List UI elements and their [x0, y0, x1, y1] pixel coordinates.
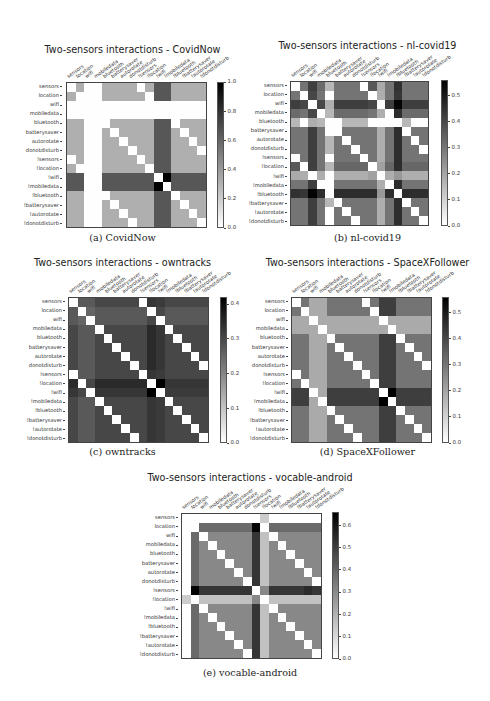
colorbar — [441, 80, 448, 226]
heatmap-cell — [199, 370, 208, 379]
heatmap-cell — [342, 198, 351, 207]
y-tick-label: !wifi — [164, 606, 178, 611]
heatmap-cell — [351, 216, 360, 225]
heatmap-cell — [121, 370, 130, 379]
y-tick-label: !wifi — [273, 174, 287, 179]
heatmap-cell — [309, 343, 318, 352]
heatmap-cell — [119, 92, 128, 101]
heatmap-cell — [128, 83, 137, 92]
heatmap-cell — [86, 379, 95, 388]
heatmap-cell — [197, 128, 206, 137]
heatmap-cell — [402, 198, 411, 207]
y-tick-label: !wifi — [48, 175, 62, 180]
heatmap-cell — [252, 550, 261, 559]
heatmap-cell — [308, 82, 317, 91]
heatmap-cell — [318, 388, 327, 397]
heatmap-cell — [402, 109, 411, 118]
heatmap-cell — [334, 136, 343, 145]
heatmap-cell — [334, 216, 343, 225]
heatmap-cell — [327, 307, 336, 316]
heatmap-cell — [368, 118, 377, 127]
heatmap-cell — [360, 127, 369, 136]
heatmap-cell — [147, 406, 156, 415]
colorbar-tick-label: 0.6 — [224, 138, 236, 143]
heatmap-cell — [93, 137, 102, 146]
heatmap-cell — [308, 118, 317, 127]
y-tick-label: location — [41, 308, 65, 313]
heatmap-cell — [379, 379, 388, 388]
heatmap-cell — [208, 649, 217, 658]
heatmap-cell — [217, 550, 226, 559]
heatmap-cell — [102, 182, 111, 191]
heatmap-cell — [385, 171, 394, 180]
heatmap-cell — [402, 207, 411, 216]
heatmap-cell — [360, 207, 369, 216]
heatmap-cell — [317, 207, 326, 216]
heatmap-cell — [225, 595, 234, 604]
heatmap-cell — [286, 631, 295, 640]
heatmap-cell — [128, 137, 137, 146]
heatmap-cell — [197, 164, 206, 173]
heatmap-cell — [95, 397, 104, 406]
heatmap-cell — [121, 361, 130, 370]
heatmap-cell — [317, 145, 326, 154]
heatmap-cell — [163, 101, 172, 110]
heatmap-cell — [292, 334, 301, 343]
heatmap-cell — [110, 83, 119, 92]
heatmap-cell — [342, 82, 351, 91]
heatmap-cell — [191, 433, 200, 442]
heatmap-cell — [84, 146, 93, 155]
heatmap-cell — [163, 173, 172, 182]
heatmap-cell — [104, 361, 113, 370]
heatmap-cell — [402, 91, 411, 100]
heatmap-cell — [368, 91, 377, 100]
colorbar-tick-label: 0.0 — [448, 223, 460, 228]
heatmap-cell — [353, 325, 362, 334]
heatmap-cell — [76, 119, 85, 128]
heatmap-cell — [128, 173, 137, 182]
heatmap-cell — [154, 128, 163, 137]
heatmap-cell — [69, 307, 78, 316]
heatmap-cell — [411, 162, 420, 171]
heatmap-cell — [269, 649, 278, 658]
heatmap-cell — [102, 92, 111, 101]
heatmap-cell — [225, 514, 234, 523]
heatmap-cell — [84, 164, 93, 173]
heatmap-cell — [208, 541, 217, 550]
heatmap-cell — [121, 298, 130, 307]
heatmap-cell — [396, 397, 405, 406]
heatmap-cell — [121, 325, 130, 334]
heatmap-cell — [388, 370, 397, 379]
heatmap-cell — [93, 110, 102, 119]
heatmap-cell — [95, 343, 104, 352]
heatmap-cell — [394, 154, 403, 163]
colorbar-tick-label: 0.2 — [227, 371, 239, 376]
heatmap-cell — [362, 325, 371, 334]
heatmap-cell — [67, 119, 76, 128]
heatmap-cell — [67, 137, 76, 146]
heatmap-cell — [199, 379, 208, 388]
heatmap-cell — [110, 119, 119, 128]
heatmap-cell — [422, 361, 431, 370]
heatmap-cell — [260, 649, 269, 658]
heatmap-cell — [234, 613, 243, 622]
heatmap-cell — [295, 550, 304, 559]
heatmap-cell — [252, 595, 261, 604]
y-tick-label: !location — [262, 381, 288, 386]
heatmap-cell — [156, 424, 165, 433]
heatmap-cell — [396, 370, 405, 379]
heatmap-cell — [360, 118, 369, 127]
heatmap-cell — [278, 523, 287, 532]
figure-caption: (d) SpaceXFollower — [245, 446, 490, 457]
heatmap-cell — [76, 83, 85, 92]
heatmap-cell — [405, 379, 414, 388]
heatmap-cell — [225, 604, 234, 613]
heatmap-cell — [368, 189, 377, 198]
heatmap-cell — [104, 343, 113, 352]
heatmap-cell — [362, 406, 371, 415]
heatmap-cell — [165, 415, 174, 424]
heatmap-cell — [325, 207, 334, 216]
heatmap-cell — [182, 379, 191, 388]
heatmap-cell — [86, 325, 95, 334]
y-tick-label: wifi — [275, 101, 287, 106]
